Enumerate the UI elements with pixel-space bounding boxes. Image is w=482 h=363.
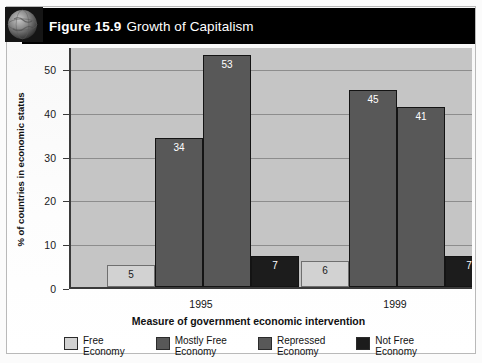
bar-value-label: 6 (302, 265, 348, 276)
figure-title: Growth of Capitalism (126, 19, 253, 34)
plot-inner: 534537645417 (71, 48, 472, 287)
y-axis-tick-label: 20 (36, 195, 56, 207)
plot-area: 534537645417 (69, 48, 472, 289)
figure-header-text: Figure 15.9Growth of Capitalism (49, 19, 254, 34)
bar-value-label: 5 (108, 269, 154, 280)
y-axis-tick-label: 40 (36, 108, 56, 120)
bar-value-label: 7 (252, 260, 298, 271)
bar: 7 (251, 256, 299, 287)
legend-label: Mostly Free Economy (175, 336, 227, 357)
legend-swatch (64, 337, 78, 350)
bar: 7 (445, 256, 472, 287)
x-axis-title: Measure of government economic intervent… (22, 315, 475, 327)
legend-item[interactable]: Repressed Economy (258, 336, 325, 357)
legend-swatch (258, 337, 272, 350)
bar-value-label: 53 (204, 59, 250, 70)
legend-label: Free Economy (83, 336, 125, 357)
figure-header-bar: Figure 15.9Growth of Capitalism (22, 8, 475, 44)
bar-value-label: 7 (446, 260, 472, 271)
legend-label: Repressed Economy (277, 336, 325, 357)
y-axis-tick-label: 50 (36, 64, 56, 76)
legend: Free EconomyMostly Free EconomyRepressed… (64, 336, 417, 357)
bar-value-label: 34 (156, 142, 202, 153)
y-axis-tick (63, 289, 69, 290)
bar: 53 (203, 55, 251, 287)
bar: 6 (301, 261, 349, 287)
bar: 41 (397, 107, 445, 287)
chart: % of countries in economic status 010203… (22, 44, 475, 350)
y-axis-title: % of countries in economic status (15, 92, 26, 246)
globe-icon (5, 7, 43, 42)
x-axis-group-label: 1995 (189, 298, 212, 310)
gridline (71, 70, 472, 71)
legend-item[interactable]: Not Free Economy (356, 336, 417, 357)
legend-swatch (156, 337, 170, 350)
y-axis-tick-label: 0 (36, 283, 56, 295)
bar-value-label: 41 (398, 111, 444, 122)
bar: 34 (155, 138, 203, 287)
legend-label: Not Free Economy (375, 336, 417, 357)
bar: 45 (349, 90, 397, 287)
bar-value-label: 45 (350, 94, 396, 105)
x-axis-group-label: 1999 (383, 298, 406, 310)
legend-item[interactable]: Mostly Free Economy (156, 336, 227, 357)
bar: 5 (107, 265, 155, 287)
legend-swatch (356, 337, 370, 350)
figure-number: Figure 15.9 (49, 19, 121, 34)
figure-container: Figure 15.9Growth of Capitalism % of cou… (0, 0, 482, 363)
y-axis-tick-label: 30 (36, 152, 56, 164)
y-axis-tick-label: 10 (36, 239, 56, 251)
legend-item[interactable]: Free Economy (64, 336, 125, 357)
